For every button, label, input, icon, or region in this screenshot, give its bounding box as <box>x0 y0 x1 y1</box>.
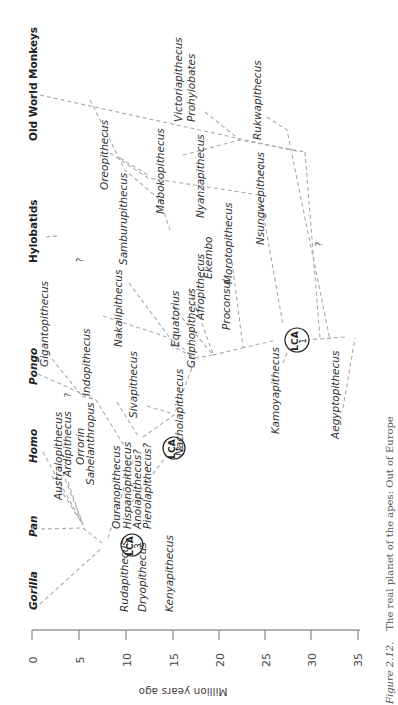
caption-text: The real planet of the apes: Out of Euro… <box>384 416 395 630</box>
clade-homo: Homo <box>27 429 39 463</box>
taxon-mabokopithecus: Mabokopithecus <box>154 128 166 214</box>
question-mark: ? <box>63 392 73 397</box>
tick-label: 35 <box>352 653 365 667</box>
taxon-labels: Rudapithecus Dryopithecus Kenyapithecus … <box>38 37 341 612</box>
tick-label: 30 <box>306 653 319 667</box>
tick-label: 25 <box>260 653 273 667</box>
taxon-pierolapithecus: Pierolapithecus? <box>141 442 153 529</box>
svg-text:Figure 2.12. The real pl: Figure 2.12. The real planet of the apes… <box>378 416 397 705</box>
branch-lca1-root <box>306 337 345 340</box>
branch-prohylobates <box>183 140 240 155</box>
tick-label: 5 <box>74 657 87 664</box>
branch-gigantopithecus <box>52 359 82 396</box>
taxon-indopithecus: Indopithecus <box>80 328 92 396</box>
taxon-rudapithecus: Rudapithecus <box>118 540 130 612</box>
taxon-aegyptopithecus: Aegyptopithecus <box>329 350 341 440</box>
taxon-prohylobates: Prohylobates <box>185 53 197 122</box>
tick-label: 15 <box>168 653 181 667</box>
taxon-ardipithecus: Ardipithecus <box>61 411 73 478</box>
phylogeny-figure: 0 5 10 15 20 25 30 35 Million years ago … <box>0 0 398 705</box>
time-axis: 0 5 10 15 20 25 30 35 Million years ago <box>27 630 365 698</box>
question-mark: ? <box>314 241 324 246</box>
clade-gorilla: Gorilla <box>27 571 39 610</box>
tick-label: 10 <box>121 653 134 667</box>
taxon-victoriapithecus: Victoriapithecus <box>172 37 184 122</box>
taxon-gigantopithecus: Gigantopithecus <box>38 280 50 367</box>
taxon-oreopithecus: Oreopithecus <box>98 119 110 190</box>
caption-label: Figure 2.12. <box>384 642 395 705</box>
axis-title: Million years ago <box>139 686 228 698</box>
taxon-dryopithecus: Dryopithecus <box>136 542 148 612</box>
branch-hylobatids <box>46 236 58 237</box>
taxon-sahelanthropus: Sahelanthropus <box>84 402 96 485</box>
taxon-ekembo: Ekembo <box>202 237 214 280</box>
branch-lca2-root <box>143 360 195 437</box>
lca-node-1: LCA 1 <box>285 328 309 352</box>
tick-label: 0 <box>27 657 40 664</box>
taxon-nsungwepithecus: Nsungwepithecus <box>254 151 266 245</box>
branch-proconsul-join <box>213 348 242 355</box>
taxon-samburupithecus: Samburupithecus <box>117 172 129 265</box>
taxon-nacholapithecus: Nacholapithecus <box>173 368 185 456</box>
question-mark: ? <box>75 257 85 262</box>
branch-mabokopithecus <box>120 158 148 175</box>
lca-number: 1 <box>298 338 308 343</box>
clade-hylobatids: Hylobatids <box>27 200 39 263</box>
taxon-nyanzapithecus: Nyanzapithecus <box>194 134 206 218</box>
figure-caption: Figure 2.12. The real planet of the apes… <box>378 416 397 705</box>
taxon-morotopithecus: Morotopithecus <box>222 202 234 284</box>
branch-nacholapithecus <box>147 406 170 413</box>
taxon-proconsul: Proconsul <box>220 279 232 330</box>
branch-pan <box>41 528 102 543</box>
taxon-rukwapithecus: Rukwapithecus <box>251 60 263 140</box>
taxon-kamoyapithecus: Kamoyapithecus <box>269 347 281 434</box>
branch-rukwapithecus <box>267 117 330 340</box>
branch-aegyptopithecus <box>343 338 355 408</box>
taxon-sivapithecus: Sivapithecus <box>127 351 139 418</box>
branch-orrorin <box>68 482 83 525</box>
taxon-equatorius: Equatorius <box>169 290 181 347</box>
branch-join-1 <box>195 355 213 358</box>
branch-oreopithecus <box>110 153 260 195</box>
clade-pan: Pan <box>27 515 39 537</box>
tick-label: 20 <box>214 653 227 667</box>
clade-old-world-monkeys: Old World Monkeys <box>27 27 39 141</box>
branch-to-lca1 <box>242 340 276 348</box>
branch-gorilla <box>40 548 102 604</box>
taxon-nakalipithecus: Nakalipithecus <box>112 269 124 347</box>
taxon-kenyapithecus: Kenyapithecus <box>163 534 175 612</box>
